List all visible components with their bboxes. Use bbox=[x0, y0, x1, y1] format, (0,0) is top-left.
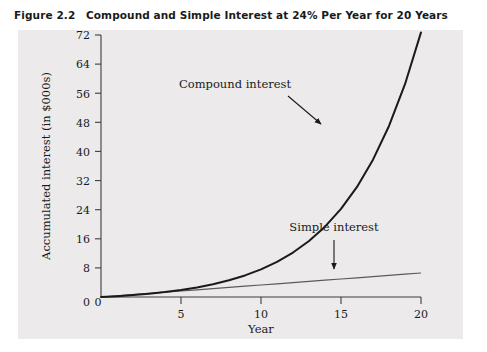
x-axis-title: Year bbox=[247, 322, 274, 336]
compound-interest-arrow bbox=[288, 96, 321, 124]
y-tick-label-0: 0 bbox=[83, 296, 90, 309]
x-tick-label-20: 20 bbox=[414, 308, 428, 321]
y-axis-ticks bbox=[95, 35, 101, 268]
interest-growth-chart: 72 64 56 48 40 32 24 16 8 0 Accumulated … bbox=[18, 30, 463, 339]
y-tick-label-48: 48 bbox=[76, 117, 90, 130]
y-tick-label-72: 72 bbox=[76, 30, 90, 42]
y-axis: 72 64 56 48 40 32 24 16 8 0 Accumulated … bbox=[39, 30, 101, 309]
x-tick-label-5: 5 bbox=[178, 308, 185, 321]
figure-title-label: Compound and Simple Interest at 24% Per … bbox=[86, 9, 448, 21]
y-tick-label-32: 32 bbox=[76, 175, 90, 188]
compound-interest-curve bbox=[101, 32, 421, 297]
x-axis-ticks bbox=[181, 297, 421, 304]
y-tick-label-40: 40 bbox=[76, 146, 90, 159]
figure-container: Figure 2.2 Compound and Simple Interest … bbox=[0, 0, 487, 352]
x-axis: 0 5 10 15 20 Year bbox=[95, 296, 429, 336]
y-tick-label-64: 64 bbox=[76, 58, 90, 71]
y-axis-title: Accumulated interest (in $000s) bbox=[39, 72, 53, 261]
x-tick-label-0: 0 bbox=[95, 296, 102, 309]
compound-interest-annotation-label: Compound interest bbox=[179, 77, 291, 91]
figure-number-label: Figure 2.2 bbox=[14, 9, 75, 21]
y-tick-label-24: 24 bbox=[76, 204, 90, 217]
compound-interest-annotation: Compound interest bbox=[179, 77, 321, 124]
y-axis-tick-labels: 72 64 56 48 40 32 24 16 8 0 bbox=[76, 30, 90, 309]
y-tick-label-16: 16 bbox=[76, 233, 90, 246]
x-tick-label-15: 15 bbox=[334, 308, 348, 321]
x-tick-label-10: 10 bbox=[254, 308, 268, 321]
plot-panel: 72 64 56 48 40 32 24 16 8 0 Accumulated … bbox=[18, 30, 463, 339]
simple-interest-annotation-label: Simple interest bbox=[289, 220, 379, 234]
y-tick-label-8: 8 bbox=[83, 262, 90, 275]
y-tick-label-56: 56 bbox=[76, 88, 90, 101]
